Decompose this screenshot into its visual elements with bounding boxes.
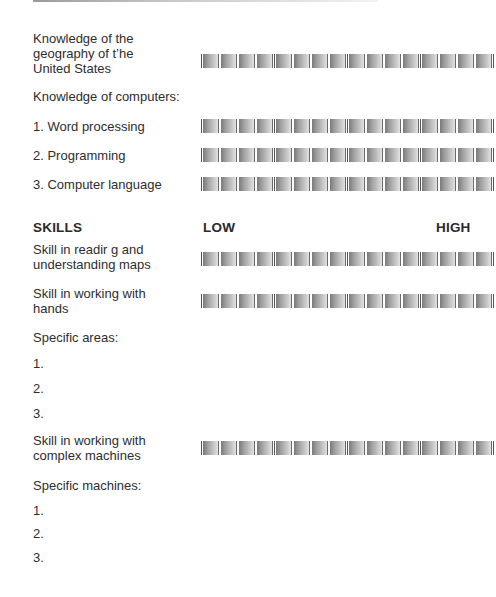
scale-cell[interactable] — [349, 148, 365, 162]
scale-cell[interactable] — [440, 252, 456, 266]
scale-cell[interactable] — [367, 294, 383, 308]
scale-cell[interactable] — [276, 119, 292, 133]
scale-cell[interactable] — [422, 177, 438, 191]
scale-cell[interactable] — [385, 441, 401, 455]
scale-cell[interactable] — [476, 252, 492, 266]
scale-cell[interactable] — [276, 177, 292, 191]
scale-cell[interactable] — [312, 294, 328, 308]
rating-scale-maps[interactable] — [201, 252, 473, 266]
scale-cell[interactable] — [403, 177, 419, 191]
scale-cell[interactable] — [440, 294, 456, 308]
scale-cell[interactable] — [239, 441, 255, 455]
scale-cell[interactable] — [221, 294, 237, 308]
scale-cell[interactable] — [422, 148, 438, 162]
scale-cell[interactable] — [294, 177, 310, 191]
scale-cell[interactable] — [422, 119, 438, 133]
scale-cell[interactable] — [367, 252, 383, 266]
scale-cell[interactable] — [276, 252, 292, 266]
scale-cell[interactable] — [458, 119, 474, 133]
scale-cell[interactable] — [312, 148, 328, 162]
scale-cell[interactable] — [312, 441, 328, 455]
scale-cell[interactable] — [294, 441, 310, 455]
scale-cell[interactable] — [440, 177, 456, 191]
scale-cell[interactable] — [330, 119, 346, 133]
scale-cell[interactable] — [349, 54, 365, 68]
scale-cell[interactable] — [385, 252, 401, 266]
scale-cell[interactable] — [385, 54, 401, 68]
scale-cell[interactable] — [276, 54, 292, 68]
scale-cell[interactable] — [403, 294, 419, 308]
scale-cell[interactable] — [294, 119, 310, 133]
scale-cell[interactable] — [203, 177, 219, 191]
scale-cell[interactable] — [440, 148, 456, 162]
scale-cell[interactable] — [476, 177, 492, 191]
scale-cell[interactable] — [312, 177, 328, 191]
scale-cell[interactable] — [257, 177, 273, 191]
scale-cell[interactable] — [476, 294, 492, 308]
scale-cell[interactable] — [349, 252, 365, 266]
scale-cell[interactable] — [458, 252, 474, 266]
scale-cell[interactable] — [349, 119, 365, 133]
scale-cell[interactable] — [257, 252, 273, 266]
scale-cell[interactable] — [203, 148, 219, 162]
scale-cell[interactable] — [422, 252, 438, 266]
scale-cell[interactable] — [385, 294, 401, 308]
scale-cell[interactable] — [257, 119, 273, 133]
scale-cell[interactable] — [476, 54, 492, 68]
scale-cell[interactable] — [367, 148, 383, 162]
scale-cell[interactable] — [330, 177, 346, 191]
scale-cell[interactable] — [349, 177, 365, 191]
scale-cell[interactable] — [367, 54, 383, 68]
scale-cell[interactable] — [257, 148, 273, 162]
scale-cell[interactable] — [403, 252, 419, 266]
scale-cell[interactable] — [203, 252, 219, 266]
scale-cell[interactable] — [458, 54, 474, 68]
scale-cell[interactable] — [403, 54, 419, 68]
scale-cell[interactable] — [221, 54, 237, 68]
scale-cell[interactable] — [239, 252, 255, 266]
scale-cell[interactable] — [367, 177, 383, 191]
scale-cell[interactable] — [330, 252, 346, 266]
scale-cell[interactable] — [403, 441, 419, 455]
scale-cell[interactable] — [312, 119, 328, 133]
scale-cell[interactable] — [330, 54, 346, 68]
rating-scale-programming[interactable] — [201, 148, 473, 162]
scale-cell[interactable] — [367, 441, 383, 455]
scale-cell[interactable] — [422, 54, 438, 68]
rating-scale-geography[interactable] — [201, 54, 473, 68]
scale-cell[interactable] — [367, 119, 383, 133]
scale-cell[interactable] — [221, 148, 237, 162]
scale-cell[interactable] — [440, 119, 456, 133]
scale-cell[interactable] — [349, 294, 365, 308]
rating-scale-computer-language[interactable] — [201, 177, 473, 191]
scale-cell[interactable] — [385, 148, 401, 162]
scale-cell[interactable] — [221, 252, 237, 266]
scale-cell[interactable] — [276, 148, 292, 162]
scale-cell[interactable] — [440, 54, 456, 68]
scale-cell[interactable] — [458, 148, 474, 162]
scale-cell[interactable] — [276, 294, 292, 308]
scale-cell[interactable] — [312, 54, 328, 68]
scale-cell[interactable] — [458, 441, 474, 455]
scale-cell[interactable] — [422, 294, 438, 308]
scale-cell[interactable] — [403, 148, 419, 162]
scale-cell[interactable] — [203, 54, 219, 68]
scale-cell[interactable] — [294, 54, 310, 68]
scale-cell[interactable] — [330, 294, 346, 308]
scale-cell[interactable] — [312, 252, 328, 266]
scale-cell[interactable] — [349, 441, 365, 455]
scale-cell[interactable] — [257, 441, 273, 455]
scale-cell[interactable] — [294, 294, 310, 308]
scale-cell[interactable] — [385, 177, 401, 191]
scale-cell[interactable] — [403, 119, 419, 133]
scale-cell[interactable] — [203, 294, 219, 308]
scale-cell[interactable] — [330, 148, 346, 162]
scale-cell[interactable] — [257, 294, 273, 308]
scale-cell[interactable] — [239, 294, 255, 308]
scale-cell[interactable] — [257, 54, 273, 68]
scale-cell[interactable] — [476, 148, 492, 162]
scale-cell[interactable] — [276, 441, 292, 455]
rating-scale-word-processing[interactable] — [201, 119, 473, 133]
scale-cell[interactable] — [294, 252, 310, 266]
rating-scale-hands[interactable] — [201, 294, 473, 308]
